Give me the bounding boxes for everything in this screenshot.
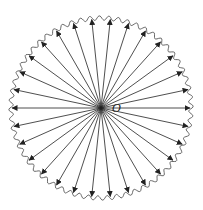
radial-arrow (20, 108, 101, 144)
radial-arrow (101, 42, 161, 108)
origin-label: O (112, 102, 121, 115)
radial-arrow (41, 42, 101, 108)
radial-arrow (41, 108, 101, 174)
radial-vector-diagram: O (0, 0, 203, 210)
radial-arrow (20, 72, 101, 108)
radial-arrows (12, 20, 190, 197)
radial-arrow (101, 108, 161, 174)
